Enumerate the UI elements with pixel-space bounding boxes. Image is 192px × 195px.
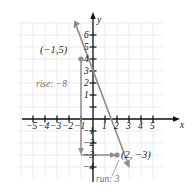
x-tick-label-4: 4 (138, 122, 143, 132)
x-axis-label: x (180, 121, 184, 131)
y-tick-label-4: 4 (84, 55, 89, 65)
x-tick-label-neg5: −5 (26, 122, 37, 132)
data-point-a (78, 56, 83, 61)
y-tick-label-neg1: −1 (83, 127, 94, 137)
x-tick-label-1: 1 (102, 122, 107, 132)
y-tick-label-neg3: −3 (83, 151, 94, 161)
x-tick-label-5: 5 (150, 122, 155, 132)
x-tick-label-3: 3 (126, 122, 131, 132)
y-tick-label-1: 1 (84, 91, 89, 101)
y-tick-label-neg4: −4 (83, 163, 94, 173)
x-tick-label-neg3: −3 (50, 122, 61, 132)
point-a-label: (−1,5) (40, 45, 67, 56)
x-tick-label-2: 2 (114, 122, 119, 132)
point-b-label: (2, −3) (121, 150, 151, 161)
graph-canvas (0, 0, 192, 195)
x-tick-label-neg4: −4 (38, 122, 49, 132)
y-tick-label-5: 5 (84, 43, 89, 53)
rise-annotation-label: rise: −8 (36, 80, 67, 90)
y-tick-label-3: 3 (84, 67, 89, 77)
y-axis-label: y (97, 16, 101, 26)
y-tick-label-6: 6 (84, 31, 89, 41)
x-tick-label-neg2: −2 (62, 122, 73, 132)
coordinate-plane-figure: y x −5 −4 −3 −2 −1 1 2 3 4 5 6 5 4 3 2 1… (0, 0, 192, 195)
y-tick-label-2: 2 (84, 79, 89, 89)
y-tick-label-neg2: −2 (83, 139, 94, 149)
data-point-b (114, 152, 119, 157)
run-annotation-label: run: 3 (96, 175, 120, 185)
